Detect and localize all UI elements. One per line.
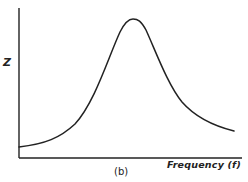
y-axis-label: Z (3, 56, 11, 69)
figure-caption: (b) (114, 166, 128, 177)
resonance-chart (0, 0, 248, 182)
resonance-curve (19, 19, 234, 147)
x-axis-label: Frequency (f) (167, 159, 241, 170)
